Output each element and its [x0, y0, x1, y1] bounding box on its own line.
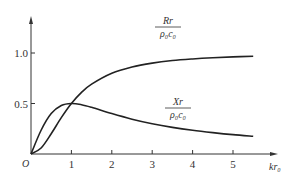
- series-label-numerator: Rr: [162, 15, 173, 26]
- x-tick-label: 4: [190, 158, 196, 170]
- x-tick-label: 5: [230, 158, 236, 170]
- y-axis-arrow-icon: [29, 16, 33, 24]
- x-tick-label: 1: [69, 158, 75, 170]
- x-tick-label: 3: [149, 158, 155, 170]
- series-label-denominator: ρ₀c₀: [159, 28, 177, 39]
- x-tick-label: 2: [109, 158, 115, 170]
- y-tick-label: 1.0: [14, 47, 28, 59]
- impedance-chart: 123450.51.0 O kr₀ Rrρ₀c₀Xrρ₀c₀: [0, 0, 299, 175]
- x-axis-label: kr₀: [269, 161, 281, 172]
- series-label-numerator: Xr: [172, 96, 183, 107]
- y-tick-label: 0.5: [14, 98, 28, 110]
- series-line-reactance: [31, 103, 253, 154]
- origin-label: O: [22, 158, 29, 169]
- x-axis-arrow-icon: [270, 152, 278, 156]
- series-label-denominator: ρ₀c₀: [169, 109, 187, 120]
